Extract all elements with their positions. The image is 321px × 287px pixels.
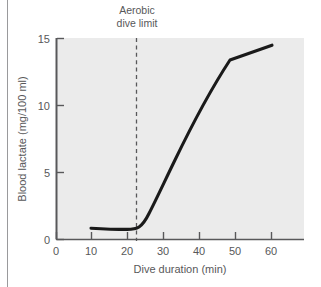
x-tick-label-10: 10 xyxy=(85,245,97,257)
aerobic-dive-limit-label-line2: dive limit xyxy=(117,17,158,29)
x-tick-label-60: 60 xyxy=(265,245,277,257)
plot-background xyxy=(56,38,304,239)
y-axis-title: Blood lactate (mg/100 ml) xyxy=(16,76,28,201)
y-tick-label-15: 15 xyxy=(38,33,50,45)
x-axis-title: Dive duration (min) xyxy=(134,263,227,275)
aerobic-dive-limit-label-line1: Aerobic xyxy=(119,4,155,16)
figure-panel: 15 10 5 0 0 10 20 30 40 50 60 Dive durat… xyxy=(0,0,321,287)
lactate-vs-dive-duration-chart: 15 10 5 0 0 10 20 30 40 50 60 Dive durat… xyxy=(0,0,321,287)
x-tick-label-30: 30 xyxy=(157,245,169,257)
y-tick-label-10: 10 xyxy=(38,100,50,112)
figure-caption-sliver xyxy=(18,279,308,287)
x-tick-label-0: 0 xyxy=(53,245,59,257)
x-tick-label-40: 40 xyxy=(193,245,205,257)
x-tick-label-20: 20 xyxy=(121,245,133,257)
y-tick-label-0: 0 xyxy=(44,234,50,246)
y-tick-label-5: 5 xyxy=(44,167,50,179)
x-tick-label-50: 50 xyxy=(229,245,241,257)
